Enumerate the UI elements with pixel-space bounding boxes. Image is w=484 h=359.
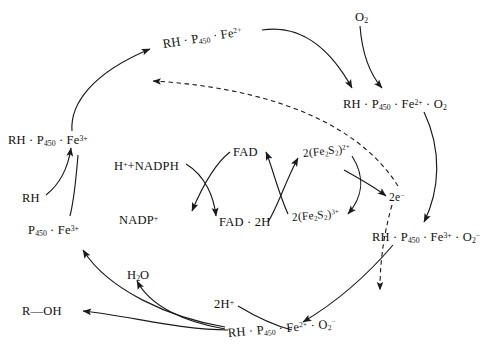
node-fe2s2-2plus: 2(Fe2S2)2+ bbox=[302, 143, 350, 161]
node-water: H2O bbox=[127, 269, 149, 283]
arrow-layer bbox=[0, 0, 484, 359]
node-p450-fe3: P450 · Fe3+ bbox=[28, 224, 79, 238]
arrow-cluster3plus-to-fad bbox=[266, 152, 288, 214]
node-rh-p450-fe2-o2: RH · P450 · Fe2+ · O2 bbox=[343, 98, 447, 112]
node-o2: O2 bbox=[355, 11, 368, 25]
node-r-oh: R—OH bbox=[22, 305, 62, 318]
arrow-complex-to-p450-fe3 bbox=[83, 250, 225, 327]
node-nadp-plus: NADP+ bbox=[119, 214, 158, 227]
arrow-o2-to-complex bbox=[360, 26, 382, 88]
p450-cycle-diagram: RH · P450 · Fe2+ O2 RH · P450 · Fe2+ · O… bbox=[0, 0, 484, 359]
arrow-fe2-to-fe2-o2 bbox=[262, 29, 352, 88]
arrow-fad-to-nadp bbox=[192, 152, 230, 211]
node-rh-p450-fe2-o2-radical: RH · P450 · Fe2+ · O2− bbox=[227, 318, 336, 341]
node-rh: RH bbox=[22, 192, 40, 205]
node-h-nadph: H++NADPH bbox=[114, 160, 179, 173]
arrow-cluster-to-electrons bbox=[344, 170, 386, 196]
arrow-nadph-to-fad2h bbox=[186, 164, 216, 216]
arrow-rh-to-p450 bbox=[46, 148, 71, 195]
arrow-rh-p450-fe3-to-fe2 bbox=[72, 49, 150, 131]
arrow-electrons-to-complex-dashed bbox=[380, 205, 392, 290]
node-rh-p450-fe3-o2-radical: RH · P450 · Fe3+ · O2− bbox=[372, 231, 480, 245]
node-fe2s2-3plus: 2(Fe2S2)3+ bbox=[291, 208, 339, 225]
node-two-h-plus: 2H+ bbox=[214, 298, 234, 311]
node-rh-p450-fe3: RH · P450 · Fe3+ bbox=[8, 134, 88, 148]
arrow-fe2-o2-to-fe3-o2rad bbox=[424, 112, 437, 222]
arrow-complex-to-r-oh bbox=[83, 311, 228, 330]
arrow-cluster2plus-to-cluster3plus bbox=[348, 156, 361, 214]
arrow-fe3-o2rad-to-fe2-o2rad bbox=[303, 245, 393, 322]
arrow-p450-fe3-from-above bbox=[70, 155, 78, 216]
node-two-electrons: 2e− bbox=[389, 192, 404, 204]
node-fad-2h: FAD · 2H bbox=[219, 216, 270, 229]
node-rh-p450-fe2: RH · P450 · Fe2+ bbox=[162, 26, 243, 52]
arrow-complex-to-water bbox=[137, 281, 225, 329]
node-fad: FAD bbox=[233, 146, 258, 159]
